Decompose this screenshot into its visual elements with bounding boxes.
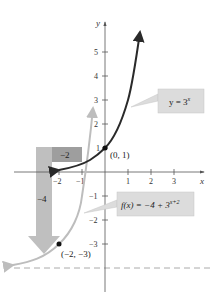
shift-horizontal-label: −2 xyxy=(60,150,70,160)
callout-base: y = 3x xyxy=(131,89,204,113)
y-tick-label: 3 xyxy=(94,96,98,105)
y-tick-label: 5 xyxy=(94,48,98,57)
callout-base-sup: x xyxy=(187,96,191,102)
x-tick-label: 2 xyxy=(149,177,153,186)
callout-transformed-sup: x+2 xyxy=(169,199,180,205)
shift-vertical-label: −4 xyxy=(37,194,47,204)
callout-transformed: f(x) = −4 + 3x+2 xyxy=(84,192,194,216)
point-0-1-label: (0, 1) xyxy=(110,150,130,160)
function-graph: −2 −4 −2 −1 1 2 3 x 1 2 3 4 5 −1 −2 −3 y xyxy=(0,0,220,305)
x-tick-label: −2 xyxy=(53,177,62,186)
y-tick-label: 4 xyxy=(94,72,98,81)
y-tick-label: −3 xyxy=(89,240,98,249)
y-tick-label: 2 xyxy=(94,120,98,129)
point-neg2-neg3-label: (−2, −3) xyxy=(61,249,91,259)
svg-text:y = 3x: y = 3x xyxy=(169,96,191,107)
x-tick-label: 3 xyxy=(172,177,176,186)
point-neg2-neg3 xyxy=(57,242,62,247)
y-axis-label: y xyxy=(95,18,100,28)
callout-base-text: y = 3 xyxy=(169,97,188,107)
x-tick-label: 1 xyxy=(126,177,130,186)
y-tick-label: −2 xyxy=(89,216,98,225)
callout-transformed-text: f(x) = −4 + 3 xyxy=(121,200,170,210)
y-tick-label: −1 xyxy=(89,192,98,201)
x-axis-label: x xyxy=(199,176,204,186)
y-tick-label: 1 xyxy=(96,144,100,153)
point-0-1 xyxy=(103,146,108,151)
